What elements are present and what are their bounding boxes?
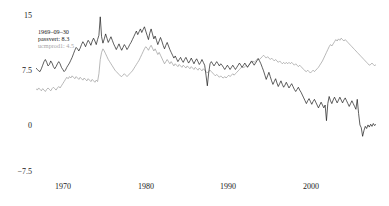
x-axis-tick-label-2000: 2000 <box>296 182 326 191</box>
series-plot <box>36 14 376 174</box>
y-axis-tick-label-minus7point5: −7.5 <box>5 167 32 176</box>
y-axis-tick-label-7point5: 7.5 <box>8 66 32 75</box>
y-axis-tick-label-15: 15 <box>8 11 32 20</box>
hover-annotation: 1969–09–30 passvert: 8.3 ucmprod1: 4.5 <box>38 29 74 50</box>
series-line-ucmprod1 <box>36 38 376 91</box>
x-axis-tick-label-1970: 1970 <box>48 182 78 191</box>
x-axis-tick-label-1990: 1990 <box>213 182 243 191</box>
chart-container: 15 7.5 0 −7.5 1970 1980 1990 2000 1969–0… <box>0 0 389 206</box>
annotation-series2-value: ucmprod1: 4.5 <box>38 43 74 50</box>
y-axis-tick-label-0: 0 <box>8 121 32 130</box>
plot-area <box>36 14 376 174</box>
series-line-passvert <box>36 17 376 136</box>
x-axis-tick-label-1980: 1980 <box>131 182 161 191</box>
